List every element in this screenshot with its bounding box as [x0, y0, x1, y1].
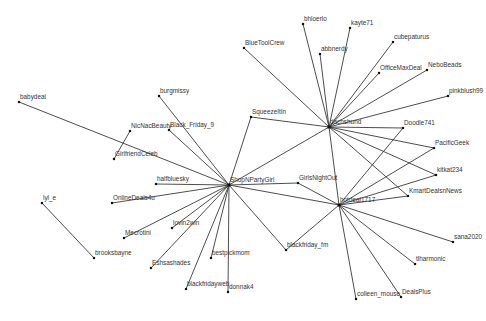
node-marker-icon [285, 249, 287, 251]
node-label: bestpickmom [212, 249, 250, 257]
node-marker-icon [349, 27, 351, 29]
graph-edge [229, 183, 298, 185]
graph-node: Black_Friday_9 [168, 121, 215, 131]
graph-node: GirlfriendCeleb [113, 150, 158, 160]
graph-node: DealsPlus [400, 288, 431, 298]
node-marker-icon [41, 202, 43, 204]
node-marker-icon [171, 227, 173, 229]
node-label: OnlineDeals4u [113, 194, 155, 201]
graph-node: blackfriday_fm [285, 241, 328, 251]
graph-edge [329, 127, 408, 196]
node-label: dachshund [330, 118, 362, 125]
node-label: abbnerdy [321, 45, 348, 53]
node-label: GirlfriendCeleb [115, 150, 158, 157]
node-label: babydeal [20, 93, 46, 101]
node-label: colleen_mouse [357, 290, 400, 298]
node-marker-icon [452, 241, 454, 243]
node-marker-icon [328, 126, 331, 129]
graph-edge [339, 205, 401, 297]
node-marker-icon [123, 237, 125, 239]
graph-node: blackfridayweb [185, 280, 230, 290]
graph-node: donnak4 [227, 283, 254, 293]
graph-node: NicNacBeauty [129, 122, 172, 132]
node-label: kitkat234 [437, 166, 463, 173]
graph-edge [19, 102, 229, 185]
graph-node: KmartDealsnNews [407, 187, 462, 197]
node-label: burgmissy [160, 87, 190, 95]
node-marker-icon [93, 257, 95, 259]
graph-edge [228, 185, 229, 292]
graph-edge [329, 28, 350, 127]
node-label: NeboBeads [428, 61, 461, 68]
graph-edge [320, 54, 329, 127]
node-marker-icon [400, 296, 402, 298]
node-label: bhloerlo [304, 15, 327, 22]
graph-node: tlharmonic [414, 255, 446, 265]
graph-node: Eshsashades [150, 259, 190, 269]
node-label: Mecrotini [125, 229, 151, 236]
graph-node: bhloerlo [302, 15, 327, 25]
graph-edge [339, 128, 403, 205]
node-marker-icon [228, 184, 231, 187]
graph-edge [329, 42, 393, 127]
node-marker-icon [210, 257, 212, 259]
graph-node: babydeal [18, 93, 46, 103]
node-label: SqueezeItIn [252, 108, 287, 116]
graph-nodes: ShopNPartyGirldachshundhotdeal1717babyde… [18, 15, 484, 300]
graph-node: kayte71 [349, 19, 374, 29]
graph-node: lovin2win [171, 219, 200, 229]
node-label: tlharmonic [416, 255, 446, 262]
node-marker-icon [113, 158, 115, 160]
node-marker-icon [158, 95, 160, 97]
node-label: OfficeMaxDeal [380, 64, 422, 71]
graph-edge [156, 184, 229, 185]
graph-node: colleen_mouse [355, 290, 401, 300]
graph-node: lyl_e [41, 194, 57, 204]
node-marker-icon [168, 129, 170, 131]
node-label: Black_Friday_9 [170, 121, 214, 129]
node-marker-icon [250, 116, 252, 118]
graph-edge [329, 127, 436, 175]
graph-node: cubepaturus [392, 33, 429, 43]
graph-node: BlueToolCrew [243, 39, 285, 49]
node-marker-icon [402, 127, 404, 129]
graph-edge [186, 185, 229, 289]
graph-edge [339, 205, 356, 299]
node-marker-icon [185, 288, 187, 290]
graph-node: pinkblush99 [447, 87, 484, 97]
node-marker-icon [129, 130, 131, 132]
graph-node: PacificGeek [433, 139, 470, 149]
graph-node: Doodle741 [402, 119, 435, 129]
graph-edge [229, 185, 339, 205]
node-marker-icon [319, 53, 321, 55]
node-marker-icon [155, 183, 157, 185]
graph-node: kitkat234 [435, 166, 463, 176]
node-marker-icon [392, 41, 394, 43]
node-label: GirlsNightOut [299, 174, 338, 182]
node-label: KmartDealsnNews [409, 187, 462, 194]
node-label: BlueToolCrew [245, 39, 285, 46]
graph-edge [229, 117, 251, 185]
node-label: hotdeal1717 [340, 196, 376, 203]
node-label: lyl_e [43, 194, 57, 202]
graph-node: bestpickmom [210, 249, 250, 259]
graph-node: halfbluesky [155, 175, 190, 185]
graph-edge [329, 127, 403, 128]
node-label: kayte71 [351, 19, 374, 27]
node-label: sana2020 [454, 233, 483, 240]
node-marker-icon [414, 263, 416, 265]
node-marker-icon [227, 291, 229, 293]
node-label: Doodle741 [404, 119, 435, 126]
node-label: PacificGeek [435, 139, 470, 146]
node-label: ShopNPartyGirl [230, 176, 274, 184]
node-label: NicNacBeauty [131, 122, 172, 130]
graph-edge [329, 127, 434, 148]
node-marker-icon [433, 147, 435, 149]
node-label: pinkblush99 [449, 87, 484, 95]
node-marker-icon [355, 298, 357, 300]
node-label: donnak4 [229, 283, 254, 290]
node-label: Eshsashades [152, 259, 190, 266]
graph-node: sana2020 [452, 233, 483, 243]
graph-edge [339, 205, 415, 264]
graph-edge [229, 185, 286, 250]
